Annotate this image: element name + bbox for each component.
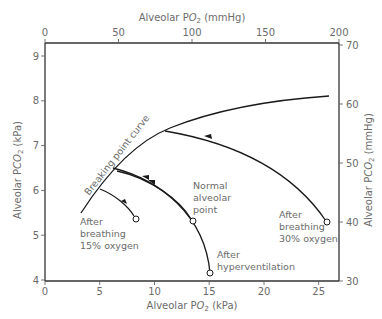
x-top-tick: 150 (256, 27, 275, 38)
x-tick: 15 (203, 286, 216, 297)
y-right-axis-title: Alveolar PCO2 (mmHg) (363, 113, 376, 227)
marker-15-oxygen (133, 216, 139, 222)
x-top-tick: 200 (329, 27, 348, 38)
x-axis-title: Alveolar PO2 (kPa) (147, 300, 238, 313)
y-tick: 9 (33, 51, 39, 62)
y-right-tick: 40 (346, 217, 359, 228)
arrow-30-oxygen-icon (204, 134, 212, 139)
o15-label: After (80, 216, 103, 227)
o15-label: breathing (80, 228, 126, 239)
o15-label: 15% oxygen (80, 240, 139, 251)
y-right-tick: 30 (346, 276, 359, 287)
y-right-tick: 70 (346, 40, 359, 51)
x-tick: 25 (312, 286, 325, 297)
y-tick: 6 (33, 185, 39, 196)
x-top-tick: 100 (182, 27, 201, 38)
x-top-axis-title: Alveolar PO2 (mmHg) (139, 12, 246, 25)
normal-label: alveolar (193, 192, 231, 203)
x-top-tick: 50 (112, 27, 125, 38)
normal-label: point (193, 204, 218, 215)
y-right-tick: 50 (346, 158, 359, 169)
o30-label: After (279, 209, 302, 220)
x-tick: 20 (258, 286, 271, 297)
breath-holding-chart: 0 5 10 15 20 25 Alveolar PO2 (kPa) 0 50 … (0, 0, 382, 319)
breaking-point-label: Breaking point curve (82, 112, 152, 197)
marker-normal (190, 218, 196, 224)
x-tick: 0 (42, 286, 48, 297)
y-tick: 8 (33, 95, 39, 106)
y-tick: 4 (33, 275, 39, 286)
o30-label: breathing (279, 221, 325, 232)
curve-15-oxygen (100, 189, 134, 216)
y-tick: 5 (33, 230, 39, 241)
y-right-tick: 60 (346, 99, 359, 110)
hyper-label: After (217, 249, 240, 260)
marker-hyperventilation (207, 270, 213, 276)
y-axis-title: Alveolar PCO2 (kPa) (12, 121, 25, 219)
x-tick: 10 (148, 286, 161, 297)
hyper-label: hyperventilation (217, 261, 295, 272)
y-tick: 7 (33, 140, 39, 151)
normal-label: Normal (193, 180, 227, 191)
x-tick: 5 (97, 286, 103, 297)
marker-30-oxygen (324, 219, 330, 225)
curve-30-oxygen (165, 131, 326, 221)
o30-label: 30% oxygen (279, 233, 338, 244)
x-top-tick: 0 (42, 27, 48, 38)
curve-normal (117, 171, 191, 219)
